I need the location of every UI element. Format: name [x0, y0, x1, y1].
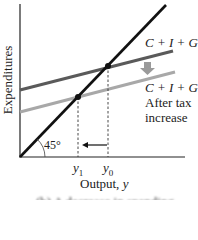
arrow-down-icon [140, 68, 155, 75]
equilibrium-point-y1 [75, 94, 81, 100]
arrow-left-icon [82, 142, 88, 148]
after-tax-label-line2: increase [145, 110, 188, 125]
figure-caption: (b) A decrease in spending [36, 194, 174, 200]
shift-arrow-shaft [144, 62, 151, 68]
x-axis-label: Output, y [80, 176, 128, 191]
after-tax-label-line1: After tax [145, 95, 192, 110]
angle-label: 45° [44, 138, 61, 153]
cig-after-tax-label: C + I + G [145, 80, 198, 95]
equilibrium-point-y0 [105, 63, 111, 69]
y-axis-label: Expenditures [0, 38, 16, 122]
cig-original-label: C + I + G [145, 35, 198, 50]
